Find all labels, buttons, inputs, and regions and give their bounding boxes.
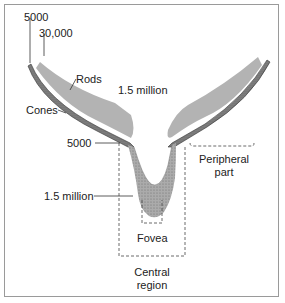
label-fovea: Fovea	[137, 232, 167, 244]
label-cone-count-edge: 5000	[24, 11, 48, 23]
label-central-2: region	[130, 279, 174, 291]
label-cone-count-fovea: 1.5 million	[44, 190, 94, 202]
fovea-pit	[128, 143, 176, 217]
label-rods: Rods	[76, 73, 102, 85]
label-central-1: Central	[130, 266, 174, 278]
label-cones: Cones	[26, 104, 58, 116]
label-peripheral-2: part	[196, 166, 252, 178]
label-rod-count-edge: 30,000	[39, 27, 73, 39]
label-peripheral-1: Peripheral	[196, 153, 252, 165]
retina-diagram	[0, 0, 285, 303]
label-cone-count-central: 5000	[67, 137, 91, 149]
label-rod-count-mid: 1.5 million	[118, 84, 168, 96]
rods-right-band	[168, 57, 263, 138]
peripheral-bracket	[190, 143, 254, 146]
